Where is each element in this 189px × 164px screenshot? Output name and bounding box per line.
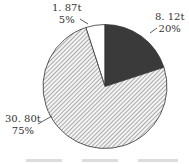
- legend-cut-off: [0, 159, 189, 164]
- white-slice-value: 1. 87t: [52, 2, 81, 14]
- hatched-slice-value: 30. 80t: [5, 113, 41, 125]
- label-white-slice: 1. 87t 5%: [52, 2, 81, 26]
- white-slice-percent: 5%: [52, 14, 81, 26]
- pie-slices: [43, 25, 167, 149]
- dark-slice-value: 8. 12t: [155, 11, 184, 23]
- label-dark-slice: 8. 12t 20%: [155, 11, 184, 35]
- label-hatched-slice: 30. 80t 75%: [5, 113, 41, 137]
- dark-slice-percent: 20%: [155, 23, 184, 35]
- hatched-slice-percent: 75%: [5, 125, 41, 137]
